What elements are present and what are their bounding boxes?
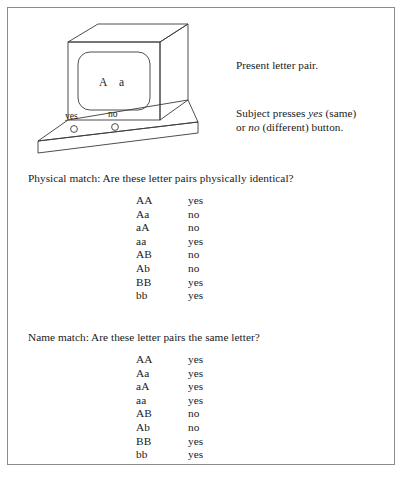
table-row: BByes [136, 435, 238, 449]
monitor-right-face [160, 24, 188, 120]
physical-match-table: AAyesAanoaAnoaayesABnoAbnoBByesbbyes [136, 194, 238, 303]
screen-letter-left: A [99, 76, 108, 88]
note-subject-presses: Subject presses yes (same) or no (differ… [236, 106, 405, 134]
letter-pair-cell: BB [136, 276, 188, 290]
letter-pair-cell: aa [136, 235, 188, 249]
physical-match-heading: Physical match: Are these letter pairs p… [28, 171, 388, 186]
table-row: aayes [136, 394, 238, 408]
screen-letter-right: a [119, 76, 124, 88]
answer-cell: yes [188, 394, 238, 408]
monitor-screen [78, 52, 150, 110]
letter-pair-cell: BB [136, 435, 188, 449]
letter-pair-cell: Aa [136, 367, 188, 381]
figure-frame: yes no A a Present letter pair. Subject … [7, 7, 395, 465]
answer-cell: yes [188, 367, 238, 381]
answer-cell: no [188, 262, 238, 276]
letter-pair-cell: bb [136, 448, 188, 462]
note-press-line2-prefix: or [236, 121, 248, 133]
table-row: BByes [136, 276, 238, 290]
letter-pair-cell: bb [136, 289, 188, 303]
answer-cell: no [188, 407, 238, 421]
yes-button-label: yes [65, 111, 78, 121]
physical-match-table-body: AAyesAanoaAnoaayesABnoAbnoBByesbbyes [136, 194, 238, 303]
answer-cell: no [188, 208, 238, 222]
name-match-section: Name match: Are these letter pairs the s… [28, 330, 388, 462]
answer-cell: yes [188, 353, 238, 367]
letter-pair-cell: Aa [136, 208, 188, 222]
letter-pair-cell: AB [136, 248, 188, 262]
answer-cell: no [188, 421, 238, 435]
no-button-label: no [108, 109, 118, 119]
name-match-table: AAyesAayesaAyesaayesABnoAbnoBByesbbyes [136, 353, 238, 462]
answer-cell: no [188, 248, 238, 262]
answer-cell: yes [188, 276, 238, 290]
table-row: bbyes [136, 289, 238, 303]
table-row: AAyes [136, 194, 238, 208]
note-press-prefix: Subject presses [236, 107, 308, 119]
letter-pair-cell: AA [136, 194, 188, 208]
table-row: AAyes [136, 353, 238, 367]
letter-pair-cell: Ab [136, 421, 188, 435]
note-present-letter-pair: Present letter pair. [236, 58, 401, 72]
table-row: aayes [136, 235, 238, 249]
name-match-table-body: AAyesAayesaAyesaayesABnoAbnoBByesbbyes [136, 353, 238, 462]
table-row: Aayes [136, 367, 238, 381]
table-row: aAyes [136, 380, 238, 394]
name-match-heading: Name match: Are these letter pairs the s… [28, 330, 388, 345]
letter-pair-cell: aa [136, 394, 188, 408]
clipped-bottom-caption [138, 471, 398, 483]
letter-pair-cell: aA [136, 221, 188, 235]
base-top-surface [38, 100, 198, 141]
apparatus-svg: yes no A a [20, 16, 220, 156]
letter-pair-cell: aA [136, 380, 188, 394]
table-row: aAno [136, 221, 238, 235]
table-row: Abno [136, 421, 238, 435]
table-row: Abno [136, 262, 238, 276]
table-row: bbyes [136, 448, 238, 462]
answer-cell: yes [188, 448, 238, 462]
apparatus-illustration: yes no A a [20, 16, 220, 156]
table-row: ABno [136, 407, 238, 421]
letter-pair-cell: Ab [136, 262, 188, 276]
table-row: ABno [136, 248, 238, 262]
answer-cell: yes [188, 289, 238, 303]
no-button-circle[interactable] [112, 124, 119, 131]
note-press-mid: (same) [323, 107, 357, 119]
answer-cell: yes [188, 435, 238, 449]
table-row: Aano [136, 208, 238, 222]
letter-pair-cell: AB [136, 407, 188, 421]
note-press-yes-emphasis: yes [308, 107, 322, 119]
yes-button-circle[interactable] [71, 126, 78, 133]
note-press-no-emphasis: no [248, 121, 259, 133]
answer-cell: yes [188, 380, 238, 394]
letter-pair-cell: AA [136, 353, 188, 367]
physical-match-section: Physical match: Are these letter pairs p… [28, 171, 388, 303]
monitor-top-face [68, 24, 188, 42]
answer-cell: yes [188, 235, 238, 249]
note-press-line2-suffix: (different) button. [260, 121, 344, 133]
answer-cell: yes [188, 194, 238, 208]
answer-cell: no [188, 221, 238, 235]
